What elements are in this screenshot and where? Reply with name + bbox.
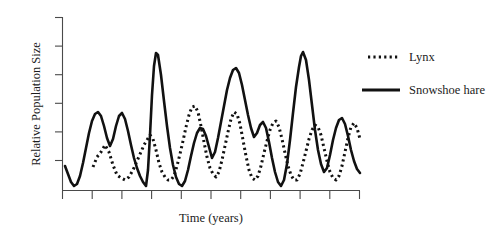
population-cycle-figure: Relative Population Size Time (years) Ly… bbox=[0, 0, 503, 238]
chart-canvas: Relative Population Size Time (years) Ly… bbox=[0, 0, 503, 238]
x-axis-title: Time (years) bbox=[179, 211, 243, 225]
legend-label-lynx: Lynx bbox=[409, 50, 435, 64]
chart-background bbox=[0, 0, 503, 238]
legend-label-snowshoe-hare: Snowshoe hare bbox=[409, 83, 485, 97]
y-axis-title: Relative Population Size bbox=[29, 42, 43, 166]
